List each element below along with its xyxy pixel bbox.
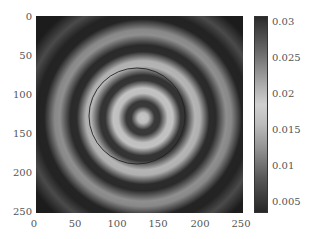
cbar-tick-0.005: 0.005 [272,197,301,207]
cbar-tick-0.015: 0.015 [272,125,301,135]
x-tick-200: 200 [185,219,215,229]
cbar-tick-0.03: 0.03 [272,17,294,27]
y-tick-50: 50 [4,51,32,61]
heatmap-plot-area [36,16,243,213]
x-tick-0: 0 [19,219,49,229]
y-tick-100: 100 [4,90,32,100]
x-tick-50: 50 [60,219,90,229]
y-tick-250: 250 [4,207,32,217]
ring-pattern [36,16,243,213]
x-tick-100: 100 [102,219,132,229]
y-tick-200: 200 [4,168,32,178]
cbar-tick-0.025: 0.025 [272,53,301,63]
y-tick-0: 0 [4,12,32,22]
x-tick-250: 250 [226,219,256,229]
colorbar [254,16,268,213]
x-tick-150: 150 [143,219,173,229]
cbar-tick-0.02: 0.02 [272,89,294,99]
cbar-tick-0.01: 0.01 [272,161,294,171]
y-tick-150: 150 [4,129,32,139]
